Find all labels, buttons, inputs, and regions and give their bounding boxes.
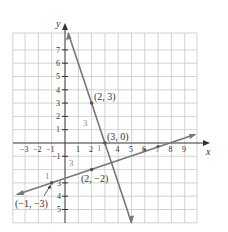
svg-text:5: 5 [129,145,133,154]
svg-text:1: 1 [56,125,60,134]
svg-text:4: 4 [56,86,60,95]
shallow-line-arrow-icon [16,190,25,195]
svg-text:5: 5 [56,72,60,81]
svg-text:7: 7 [56,46,60,55]
rise-steep-label: 3 [83,118,88,128]
label-point-2-neg2: (2, −2) [81,173,108,185]
run-shallow-label: 3 [69,158,74,168]
label-point-3-0: (3, 0) [107,131,129,143]
svg-text:2: 2 [89,145,93,154]
svg-text:4: 4 [116,145,120,154]
svg-text:8: 8 [169,145,173,154]
label-point-2-3: (2, 3) [94,91,116,103]
run-steep-label: 1 [97,143,102,153]
point-on-line [157,145,160,148]
label-point-neg1-neg3: (−1, −3) [15,198,48,210]
steep-line [68,33,131,223]
y-axis-arrow-icon [62,23,68,30]
svg-text:−2: −2 [33,145,42,154]
svg-text:4: 4 [57,192,61,201]
grid [13,33,197,223]
shallow-line-arrow-icon [189,134,197,139]
svg-text:2: 2 [56,112,60,121]
point-2-3 [90,101,94,105]
svg-text:1: 1 [76,145,80,154]
svg-text:9: 9 [182,145,186,154]
rise-shallow-label: 1 [45,171,50,181]
svg-text:5: 5 [57,205,61,214]
svg-text:−1: −1 [52,152,61,161]
point-2-neg2 [90,168,94,172]
pointer-arrow-icon [48,185,52,190]
coordinate-plane: y x −3 −2 −1 1 2 4 5 6 7 8 9 7 6 5 4 3 2… [0,0,228,232]
y-axis-label: y [55,18,61,29]
svg-text:3: 3 [56,99,60,108]
point-neg1-neg3 [50,181,54,185]
point-on-line [143,149,146,152]
svg-text:−3: −3 [20,145,29,154]
svg-text:6: 6 [56,59,60,68]
x-axis-label: x [205,146,211,157]
